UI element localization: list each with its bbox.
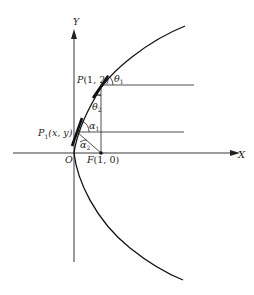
label-origin: O [65, 154, 73, 165]
x-axis-label: X [237, 149, 246, 160]
parabola-diagram: X Y P(1, 2) θ1 θ2 α1 α2 P1(x, y) [0, 0, 254, 295]
x-axis: X [13, 149, 246, 160]
label-alpha2: α2 [80, 139, 90, 151]
angle-arc-theta2 [95, 94, 101, 95]
y-axis-label: Y [73, 17, 80, 27]
label-F: F(1, 0) [86, 154, 119, 165]
label-theta1: θ1 [114, 73, 124, 85]
label-P1: P1(x, y) [37, 127, 73, 140]
label-theta2: θ2 [92, 101, 102, 113]
label-alpha1: α1 [89, 120, 99, 132]
label-P: P(1, 2) [76, 74, 109, 85]
y-axis-arrow-icon [71, 29, 77, 39]
